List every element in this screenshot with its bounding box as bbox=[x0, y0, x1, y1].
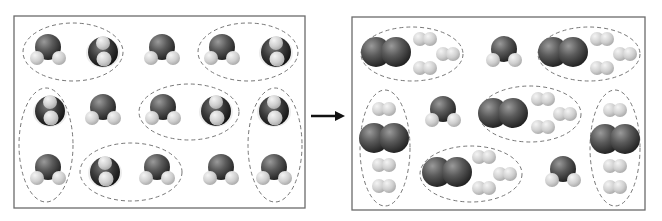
hydrogen-atom bbox=[382, 158, 396, 172]
arrow-head-icon bbox=[335, 111, 345, 121]
hydrogen-atom bbox=[423, 32, 437, 46]
hydrogen-atom bbox=[613, 180, 627, 194]
hydrogen-atom bbox=[167, 111, 181, 125]
hydrogen-atom bbox=[447, 113, 461, 127]
hydrogen-atom bbox=[269, 36, 283, 50]
hydrogen-atom bbox=[382, 179, 396, 193]
reaction-diagram bbox=[0, 0, 662, 221]
hydrogen-atom bbox=[482, 181, 496, 195]
hydrogen-atom bbox=[508, 53, 522, 67]
hydrogen-atom bbox=[52, 51, 66, 65]
hydrogen-atom bbox=[600, 61, 614, 75]
hydrogen-atom bbox=[623, 47, 637, 61]
hydrogen-atom bbox=[541, 92, 555, 106]
oxygen-atom bbox=[379, 123, 409, 153]
hydrogen-atom bbox=[503, 167, 517, 181]
hydrogen-atom bbox=[425, 113, 439, 127]
hydrogen-atom bbox=[145, 111, 159, 125]
hydrogen-atom bbox=[613, 103, 627, 117]
hydrogen-atom bbox=[225, 171, 239, 185]
hydrogen-atom bbox=[30, 171, 44, 185]
hydrogen-atom bbox=[96, 36, 110, 50]
hydrogen-atom bbox=[268, 111, 283, 126]
oxygen-molecule bbox=[590, 124, 640, 154]
hydrogen-atom bbox=[44, 111, 59, 126]
hydrogen-atom bbox=[486, 53, 500, 67]
hydrogen-atom bbox=[423, 61, 437, 75]
oxygen-atom bbox=[498, 98, 528, 128]
hydrogen-atom bbox=[204, 51, 218, 65]
oxygen-molecule bbox=[538, 37, 588, 67]
hydrogen-atom bbox=[139, 171, 153, 185]
hydrogen-atom bbox=[166, 51, 180, 65]
products-panel bbox=[352, 17, 645, 210]
reaction-arrow bbox=[311, 111, 345, 121]
hydrogen-atom bbox=[613, 159, 627, 173]
hydrogen-atom bbox=[43, 95, 57, 109]
oxygen-atom bbox=[558, 37, 588, 67]
oxygen-molecule bbox=[422, 157, 472, 187]
hydrogen-atom bbox=[30, 51, 44, 65]
hydrogen-atom bbox=[382, 102, 396, 116]
oxygen-atom bbox=[610, 124, 640, 154]
oxygen-atom bbox=[381, 37, 411, 67]
hydrogen-atom bbox=[161, 171, 175, 185]
oxygen-molecule bbox=[478, 98, 528, 128]
hydrogen-atom bbox=[267, 95, 281, 109]
hydrogen-atom bbox=[270, 52, 285, 67]
hydrogen-atom bbox=[52, 171, 66, 185]
hydrogen-atom bbox=[85, 111, 99, 125]
reactants-panel bbox=[14, 16, 305, 208]
hydrogen-atom bbox=[446, 47, 460, 61]
hydrogen-atom bbox=[144, 51, 158, 65]
hydrogen-atom bbox=[600, 32, 614, 46]
hydrogen-atom bbox=[567, 173, 581, 187]
hydrogen-atom bbox=[107, 111, 121, 125]
hydrogen-atom bbox=[545, 173, 559, 187]
hydrogen-atom bbox=[482, 150, 496, 164]
hydrogen-atom bbox=[541, 120, 555, 134]
hydrogen-atom bbox=[99, 172, 114, 187]
hydrogen-atom bbox=[209, 95, 223, 109]
oxygen-molecule bbox=[361, 37, 411, 67]
hydrogen-atom bbox=[97, 52, 112, 67]
hydrogen-atom bbox=[256, 171, 270, 185]
oxygen-atom bbox=[442, 157, 472, 187]
hydrogen-atom bbox=[563, 107, 577, 121]
hydrogen-atom bbox=[203, 171, 217, 185]
hydrogen-atom bbox=[98, 156, 112, 170]
hydrogen-atom bbox=[226, 51, 240, 65]
oxygen-molecule bbox=[359, 123, 409, 153]
hydrogen-atom bbox=[210, 111, 225, 126]
hydrogen-atom bbox=[278, 171, 292, 185]
